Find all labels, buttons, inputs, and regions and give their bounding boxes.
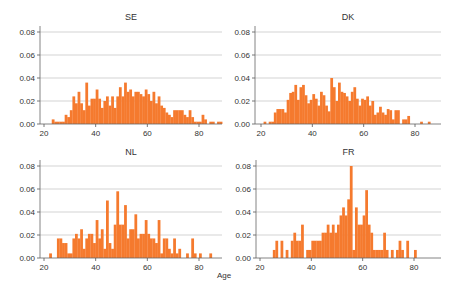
- histogram-bar: [150, 101, 153, 124]
- histogram-bar: [158, 96, 161, 124]
- histogram-bar: [145, 220, 148, 258]
- histogram-bar: [178, 110, 181, 124]
- histogram-bar: [286, 250, 289, 258]
- histogram-bar: [137, 238, 140, 258]
- histogram-bar: [147, 94, 150, 124]
- histogram-bar: [405, 119, 408, 124]
- histogram-bar: [334, 233, 337, 258]
- histogram-bar: [178, 249, 181, 258]
- histogram-bar: [292, 92, 295, 124]
- histogram-bar: [83, 110, 86, 124]
- histogram-bar: [374, 115, 377, 124]
- y-tick-label: 0.08: [19, 28, 35, 37]
- histogram-bar: [327, 225, 330, 258]
- histogram-bar: [98, 99, 101, 124]
- histogram-bar: [70, 253, 73, 258]
- histogram-bar: [127, 92, 130, 124]
- x-tick-label: 40: [307, 263, 316, 272]
- histogram-bar: [316, 241, 319, 258]
- histogram-bar: [101, 229, 104, 258]
- histogram-bar: [342, 207, 345, 258]
- histogram-bar: [103, 101, 106, 124]
- histogram-bar: [78, 238, 81, 258]
- y-tick-label: 0.08: [235, 162, 251, 171]
- y-tick-label: 0.00: [234, 120, 250, 129]
- histogram-bar: [147, 234, 150, 258]
- histogram-bar: [287, 100, 290, 124]
- histogram-bar: [371, 101, 374, 124]
- x-tick-label: 80: [411, 129, 420, 138]
- histogram-bar: [284, 113, 287, 125]
- histogram-bar: [350, 166, 353, 258]
- histogram-bar: [155, 243, 158, 258]
- histogram-bar: [165, 113, 168, 125]
- histogram-bar: [330, 78, 333, 124]
- histogram-bar: [199, 253, 202, 258]
- histogram-bar: [109, 106, 112, 124]
- histogram-bar: [312, 94, 315, 124]
- histogram-bar: [132, 229, 135, 258]
- histogram-bar: [319, 241, 322, 258]
- histogram-bar: [75, 103, 78, 124]
- histogram-bar: [186, 117, 189, 124]
- histogram-bar: [155, 103, 158, 124]
- histogram-bar: [294, 85, 297, 124]
- histogram-bar: [274, 113, 277, 125]
- histogram-bar: [368, 225, 371, 258]
- histogram-bar: [320, 92, 323, 124]
- histogram-bar: [153, 238, 156, 258]
- histogram-bar: [67, 253, 70, 258]
- histogram-bar: [72, 238, 75, 258]
- histogram-bar: [275, 241, 278, 258]
- histogram-bar: [414, 250, 417, 258]
- histogram-bar: [299, 241, 302, 258]
- histogram-bar: [114, 108, 117, 124]
- histogram-bar: [88, 234, 91, 258]
- histogram-bar: [67, 117, 70, 124]
- histogram-bar: [279, 109, 282, 124]
- y-tick-label: 0.06: [19, 185, 35, 194]
- panel-title: DK: [342, 12, 355, 22]
- y-tick-label: 0.06: [234, 51, 250, 60]
- histogram-bar: [168, 115, 171, 124]
- histogram-bar: [165, 238, 168, 258]
- histogram-bar: [346, 96, 349, 124]
- histogram-bar: [173, 238, 176, 258]
- histogram-bar: [364, 100, 367, 124]
- histogram-bar: [109, 243, 112, 258]
- histogram-bar: [323, 95, 326, 124]
- histogram-bar: [273, 250, 276, 258]
- histogram-bar: [366, 96, 369, 124]
- panel-title: SE: [125, 12, 137, 22]
- histogram-bar: [340, 215, 343, 258]
- histogram-bar: [160, 253, 163, 258]
- y-tick-label: 0.00: [235, 254, 251, 263]
- histogram-bar: [124, 205, 127, 258]
- histogram-bar: [173, 110, 176, 124]
- histogram-bar: [65, 115, 68, 124]
- histogram-bar: [387, 109, 390, 124]
- histogram-bar: [302, 85, 305, 124]
- x-tick-label: 20: [40, 129, 49, 138]
- y-tick-label: 0.02: [19, 231, 35, 240]
- histogram-bar: [341, 92, 344, 124]
- histogram-bar: [324, 233, 327, 258]
- histogram-bar: [62, 243, 65, 258]
- histogram-bar: [394, 110, 397, 124]
- histogram-bar: [202, 115, 205, 124]
- histogram-bar: [122, 225, 125, 258]
- histogram-bar: [300, 87, 303, 124]
- histogram-bar: [171, 253, 174, 258]
- histogram-bar: [160, 106, 163, 124]
- histogram-bar: [377, 113, 380, 125]
- y-tick-label: 0.04: [19, 208, 35, 217]
- histogram-bar: [186, 253, 189, 258]
- histogram-bar: [140, 234, 143, 258]
- histogram-bar: [168, 249, 171, 258]
- histogram-bar: [407, 116, 410, 124]
- histogram-bar: [98, 238, 101, 258]
- histogram-bar: [129, 229, 132, 258]
- histogram-bar: [378, 250, 381, 258]
- histogram-bar: [176, 110, 179, 124]
- histogram-bar: [401, 250, 404, 258]
